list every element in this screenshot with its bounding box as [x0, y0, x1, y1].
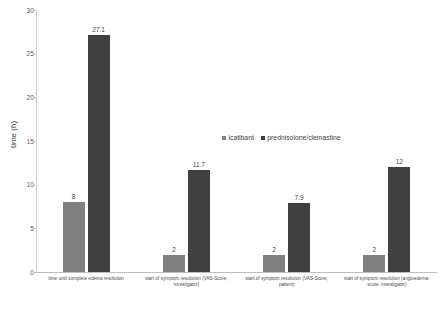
bar-value-label: 11.7: [180, 161, 218, 169]
y-axis-tick: 30: [0, 7, 34, 14]
bar-icatibant: [163, 255, 185, 272]
bar-group: 827.1: [36, 10, 136, 272]
legend-label: prednisolone/clemastine: [267, 134, 340, 141]
bar-prednisolone-clemastine: [188, 170, 210, 272]
bar-group: 211.7: [136, 10, 236, 272]
bar-prednisolone-clemastine: [388, 167, 410, 272]
chart-legend: icatibantprednisolone/clemastine: [222, 134, 341, 141]
y-axis-tick-label: 10: [6, 181, 34, 188]
category-label-line: start of symptom resolution (VAS-Score;: [231, 276, 343, 282]
legend-item: prednisolone/clemastine: [261, 134, 341, 141]
legend-item: icatibant: [222, 134, 254, 141]
bar-icatibant: [363, 255, 385, 272]
y-axis-tick-label: 25: [6, 50, 34, 57]
figure-bar-chart: time (h) 051015202530 827.1211.727.9212 …: [0, 0, 445, 314]
bar-prednisolone-clemastine: [288, 203, 310, 272]
y-axis-tick-label: 30: [6, 7, 34, 14]
y-axis-tick-mark: [34, 272, 36, 273]
y-axis-title: time (h): [9, 105, 18, 165]
category-label: start of symptom resolution (VAS-Score;i…: [130, 276, 242, 287]
legend-swatch-icon: [222, 136, 226, 140]
category-label: time until complete edema resolution: [30, 276, 142, 282]
y-axis-tick: 10: [0, 181, 34, 188]
legend-swatch-icon: [261, 136, 265, 140]
y-axis-tick: 20: [0, 94, 34, 101]
y-axis-tick-label: 15: [6, 138, 34, 145]
bar-icatibant: [63, 202, 85, 272]
bar-value-label: 12: [380, 158, 418, 166]
bar-group: 27.9: [237, 10, 337, 272]
category-label-line: start of symptom resolution (VAS-Score;: [130, 276, 242, 282]
y-axis-tick: 25: [0, 50, 34, 57]
bars-container: 827.1211.727.9212: [36, 10, 437, 272]
bar-prednisolone-clemastine: [88, 35, 110, 272]
y-axis-tick: 5: [0, 225, 34, 232]
y-axis-tick-label: 20: [6, 94, 34, 101]
bar-group: 212: [337, 10, 437, 272]
y-axis-tick: 0: [0, 269, 34, 276]
category-label-line: time until complete edema resolution: [30, 276, 142, 282]
category-label-line: start of symptom resolution (angioedema-: [331, 276, 443, 282]
chart-plot-area: time (h) 051015202530 827.1211.727.9212 …: [0, 0, 445, 314]
x-axis-line: [36, 272, 437, 273]
y-axis-tick-label: 5: [6, 225, 34, 232]
bar-value-label: 7.9: [280, 194, 318, 202]
y-axis-tick-label: 0: [6, 269, 34, 276]
category-label-line: investigator): [130, 282, 242, 288]
category-label: start of symptom resolution (angioedema-…: [331, 276, 443, 287]
bar-icatibant: [263, 255, 285, 272]
y-axis-tick: 15: [0, 138, 34, 145]
legend-label: icatibant: [229, 134, 254, 141]
category-label-line: patient): [231, 282, 343, 288]
bar-value-label: 27.1: [80, 26, 118, 34]
category-label-line: score; investigator): [331, 282, 443, 288]
category-label: start of symptom resolution (VAS-Score;p…: [231, 276, 343, 287]
